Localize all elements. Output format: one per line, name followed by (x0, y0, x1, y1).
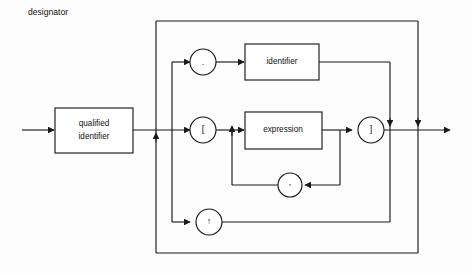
diagram-title: designator (28, 7, 68, 17)
box-qualified-identifier (55, 108, 133, 153)
terminal-rbracket-label: ] (370, 124, 373, 134)
railroad-diagram-svg: designator qualified identifier . identi… (0, 0, 472, 273)
box-identifier-label: identifier (267, 57, 298, 66)
box-qualified-identifier-label-line1: qualified (79, 119, 110, 128)
diagram-canvas: designator qualified identifier . identi… (0, 0, 472, 273)
terminal-caret-label: ↑ (207, 216, 212, 226)
terminal-dot-label: . (202, 57, 205, 67)
box-qualified-identifier-label-line2: identifier (79, 132, 110, 141)
box-expression-label: expression (263, 125, 303, 134)
terminal-comma-label: , (289, 177, 292, 187)
